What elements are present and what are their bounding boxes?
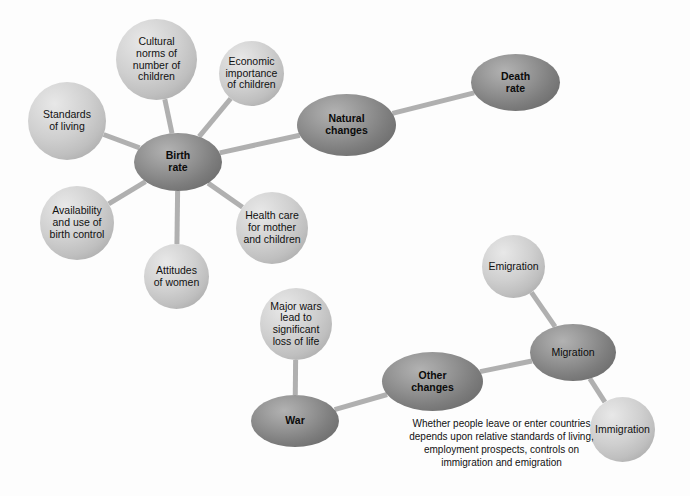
node-availability-birth-control[interactable]: Availability and use of birth control — [40, 186, 114, 260]
node-major-wars[interactable]: Major wars lead to significant loss of l… — [260, 288, 332, 360]
node-label-economic-importance: Economic importance of children — [222, 56, 282, 91]
node-standards-of-living[interactable]: Standards of living — [28, 82, 106, 160]
node-label-health-care: Health care for mother and children — [239, 210, 304, 245]
edge-migration-immigration — [590, 379, 605, 402]
node-label-standards-of-living: Standards of living — [39, 109, 95, 133]
node-label-attitudes-of-women: Attitudes of women — [150, 265, 204, 289]
node-cultural-norms[interactable]: Cultural norms of number of children — [116, 19, 197, 100]
node-other-changes[interactable]: Other changes — [382, 352, 483, 411]
edge-natural-death — [392, 93, 474, 114]
edge-war-other — [335, 395, 388, 410]
node-emigration[interactable]: Emigration — [482, 235, 545, 298]
node-label-availability-birth-control: Availability and use of birth control — [46, 205, 109, 240]
node-label-natural-changes: Natural changes — [321, 113, 372, 137]
diagram-canvas: Cultural norms of number of childrenEcon… — [0, 0, 690, 496]
node-label-death-rate: Death rate — [497, 71, 534, 95]
node-label-birth-rate: Birth rate — [162, 150, 195, 174]
edge-cultural-birth — [165, 99, 172, 133]
node-label-migration: Migration — [547, 347, 598, 359]
node-migration[interactable]: Migration — [530, 324, 616, 381]
edge-emigration-migration — [531, 292, 555, 326]
node-label-other-changes: Other changes — [407, 370, 458, 394]
edge-availability-birth — [109, 182, 146, 204]
node-economic-importance[interactable]: Economic importance of children — [219, 41, 284, 106]
edge-standards-birth — [104, 135, 140, 148]
migration-caption: Whether people leave or enter countries … — [377, 417, 626, 469]
node-death-rate[interactable]: Death rate — [471, 54, 560, 111]
node-label-war: War — [281, 415, 308, 427]
node-health-care[interactable]: Health care for mother and children — [236, 192, 308, 264]
node-label-major-wars: Major wars lead to significant loss of l… — [266, 301, 325, 348]
edge-birth-natural — [220, 135, 300, 153]
edge-other-migration — [480, 361, 532, 372]
edge-health-birth — [208, 183, 242, 207]
node-birth-rate[interactable]: Birth rate — [134, 133, 222, 191]
node-war[interactable]: War — [251, 395, 339, 447]
node-attitudes-of-women[interactable]: Attitudes of women — [144, 244, 209, 309]
edge-economic-birth — [199, 99, 231, 137]
edge-attitudes-birth — [177, 191, 178, 244]
node-label-cultural-norms: Cultural norms of number of children — [129, 36, 184, 83]
node-natural-changes[interactable]: Natural changes — [297, 94, 396, 156]
node-label-emigration: Emigration — [484, 261, 542, 273]
